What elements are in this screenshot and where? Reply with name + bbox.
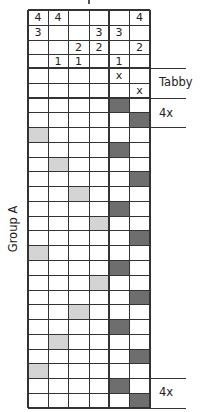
- grid-vline: [89, 10, 90, 408]
- treadling-cell: [89, 201, 109, 216]
- treadling-cell: [28, 113, 48, 128]
- treadling-cell: [48, 378, 68, 393]
- threading-cell: 4: [48, 10, 68, 25]
- weaving-draft: 444333222111xx Tabby 4x 4x Group A: [0, 0, 202, 412]
- tabby-cell: [129, 68, 150, 83]
- treadling-cell: [109, 128, 129, 143]
- tabby-cell: [89, 83, 109, 98]
- treadling-cell: [68, 364, 89, 379]
- treadling-cell: [109, 172, 129, 187]
- treadling-cell: [48, 113, 68, 128]
- treadling-cell: [89, 260, 109, 275]
- threading-cell: [28, 54, 48, 68]
- treadle-mark: [48, 334, 68, 349]
- tabby-cell: [48, 83, 68, 98]
- treadle-mark: [48, 157, 68, 172]
- treadling-cell: [68, 201, 89, 216]
- treadling-cell: [68, 113, 89, 128]
- treadling-cell: [109, 393, 129, 408]
- threading-cell: 1: [48, 54, 68, 68]
- top-edge-mark: [88, 0, 90, 4]
- treadle-mark: [129, 231, 150, 246]
- treadle-mark: [129, 113, 150, 128]
- treadling-cell: [89, 128, 109, 143]
- threading-cell: 1: [109, 54, 129, 68]
- treadle-mark: [109, 142, 129, 157]
- treadling-cell: [28, 290, 48, 305]
- treadling-cell: [129, 275, 150, 290]
- treadling-cell: [48, 275, 68, 290]
- threading-cell: [48, 40, 68, 54]
- treadling-cell: [48, 128, 68, 143]
- treadling-cell: [89, 246, 109, 261]
- treadle-mark: [129, 349, 150, 364]
- threading-cell: 3: [89, 25, 109, 40]
- threading-cell: [109, 10, 129, 25]
- treadling-cell: [28, 305, 48, 320]
- treadling-cell: [68, 275, 89, 290]
- treadling-cell: [68, 290, 89, 305]
- treadling-cell: [89, 364, 109, 379]
- grid-vline: [108, 10, 110, 408]
- treadling-cell: [48, 349, 68, 364]
- treadling-cell: [109, 246, 129, 261]
- treadling-cell: [28, 349, 48, 364]
- tabby-divider-bottom: [150, 98, 186, 99]
- treadling-cell: [28, 231, 48, 246]
- repeat-bottom-divider: [150, 378, 186, 379]
- treadling-cell: [109, 290, 129, 305]
- repeat-bottom-label: 4x: [159, 385, 173, 399]
- treadling-cell: [28, 319, 48, 334]
- treadling-cell: [89, 290, 109, 305]
- threading-cell: [89, 54, 109, 68]
- tabby-cell: x: [109, 68, 129, 83]
- treadling-cell: [28, 334, 48, 349]
- treadling-cell: [109, 364, 129, 379]
- treadling-cell: [28, 201, 48, 216]
- treadling-cell: [109, 187, 129, 202]
- threading-cell: 4: [28, 10, 48, 25]
- tabby-cell: x: [129, 83, 150, 98]
- threading-cell: 2: [129, 40, 150, 54]
- treadling-cell: [89, 231, 109, 246]
- treadle-mark: [28, 364, 48, 379]
- grid-vline: [48, 10, 49, 408]
- grid-vline: [149, 10, 151, 408]
- treadling-cell: [28, 393, 48, 408]
- tabby-label: Tabby: [159, 75, 193, 89]
- treadling-cell: [28, 172, 48, 187]
- tabby-cell: [68, 83, 89, 98]
- tabby-cell: [109, 83, 129, 98]
- treadling-cell: [28, 98, 48, 113]
- treadle-mark: [129, 393, 150, 408]
- treadling-cell: [109, 231, 129, 246]
- treadling-cell: [89, 319, 109, 334]
- tabby-cell: [68, 68, 89, 83]
- threading-cell: 3: [109, 25, 129, 40]
- treadling-cell: [68, 334, 89, 349]
- treadling-cell: [28, 260, 48, 275]
- treadling-cell: [68, 393, 89, 408]
- treadling-cell: [48, 260, 68, 275]
- treadling-cell: [109, 275, 129, 290]
- threading-cell: 2: [89, 40, 109, 54]
- treadling-cell: [68, 216, 89, 231]
- treadling-cell: [68, 246, 89, 261]
- treadling-cell: [129, 319, 150, 334]
- treadling-cell: [68, 319, 89, 334]
- threading-cell: 2: [68, 40, 89, 54]
- treadling-cell: [89, 305, 109, 320]
- treadle-mark: [28, 128, 48, 143]
- treadling-cell: [48, 393, 68, 408]
- treadling-cell: [129, 98, 150, 113]
- treadling-cell: [109, 216, 129, 231]
- treadling-cell: [129, 260, 150, 275]
- treadle-mark: [129, 172, 150, 187]
- treadle-mark: [129, 290, 150, 305]
- treadling-cell: [48, 364, 68, 379]
- grid-vline: [68, 10, 69, 408]
- threading-cell: [129, 54, 150, 68]
- treadling-cell: [48, 98, 68, 113]
- treadling-cell: [68, 98, 89, 113]
- treadling-cell: [109, 349, 129, 364]
